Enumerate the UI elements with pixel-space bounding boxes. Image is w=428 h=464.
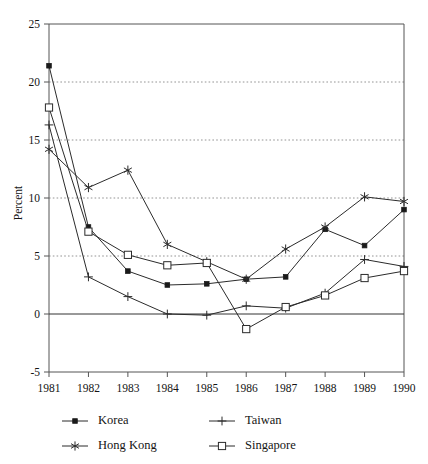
legend-marker-korea — [73, 419, 78, 424]
chart-figure: 2520151050-5 198119821983198419851986198… — [0, 0, 428, 464]
line-chart: 2520151050-5 198119821983198419851986198… — [0, 0, 428, 464]
x-tick-label-1988: 1988 — [314, 382, 337, 394]
legend-label-korea: Korea — [98, 413, 129, 427]
x-tick-label-1984: 1984 — [156, 382, 179, 394]
x-tick-label-1990: 1990 — [393, 382, 416, 394]
data-point-korea-1989 — [362, 243, 367, 248]
y-tick-label-10: 10 — [29, 192, 41, 204]
legend-label-hong-kong: Hong Kong — [98, 438, 157, 452]
x-tick-label-1987: 1987 — [274, 382, 297, 394]
data-point-singapore-1981 — [45, 104, 52, 111]
data-point-korea-1983 — [126, 269, 131, 274]
data-point-singapore-1982 — [85, 228, 92, 235]
y-axis-title: Percent — [12, 185, 24, 220]
y-tick-label-20: 20 — [29, 76, 41, 88]
y-tick-label-0: 0 — [34, 308, 40, 320]
data-point-korea-1985 — [204, 282, 209, 287]
legend-label-singapore: Singapore — [245, 438, 296, 452]
y-tick-label-15: 15 — [29, 134, 41, 146]
x-tick-label-1985: 1985 — [195, 382, 218, 394]
data-point-singapore-1989 — [361, 274, 368, 281]
x-tick-label-1983: 1983 — [116, 382, 139, 394]
data-point-singapore-1985 — [203, 259, 210, 266]
y-tick-label--5: -5 — [30, 366, 40, 378]
legend-marker-singapore — [218, 442, 225, 449]
data-point-singapore-1983 — [124, 251, 131, 258]
data-point-korea-1984 — [165, 283, 170, 288]
x-tick-label-1989: 1989 — [353, 382, 376, 394]
x-tick-label-1982: 1982 — [77, 382, 100, 394]
data-point-korea-1981 — [47, 63, 52, 68]
data-point-singapore-1984 — [164, 262, 171, 269]
data-point-singapore-1988 — [322, 292, 329, 299]
y-tick-label-5: 5 — [34, 250, 40, 262]
data-point-singapore-1987 — [282, 303, 289, 310]
chart-background — [0, 0, 428, 464]
x-tick-label-1981: 1981 — [38, 382, 61, 394]
legend-label-taiwan: Taiwan — [245, 413, 282, 427]
data-point-singapore-1990 — [400, 267, 407, 274]
data-point-korea-1987 — [283, 275, 288, 280]
x-tick-label-1986: 1986 — [235, 382, 258, 394]
y-tick-label-25: 25 — [29, 18, 41, 30]
data-point-korea-1990 — [402, 207, 407, 212]
data-point-singapore-1986 — [243, 325, 250, 332]
